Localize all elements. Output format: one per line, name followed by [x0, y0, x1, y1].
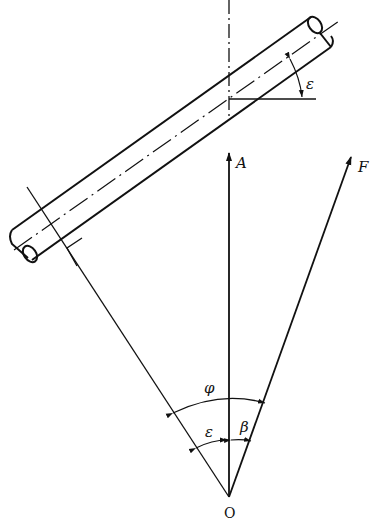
label-a: A: [234, 154, 247, 172]
label-f: F: [357, 158, 369, 176]
vector-f: [229, 157, 351, 497]
shaft-centerline: [14, 21, 339, 250]
inclined-shaft: [10, 14, 333, 265]
perpendicular-line: [27, 187, 229, 497]
beta-angle-arc: [231, 440, 251, 441]
force-diagram: ε A F φ ε β O: [0, 0, 379, 529]
phi-angle-arc: [173, 398, 265, 413]
epsilon-angle-arc-top: [290, 59, 302, 97]
right-angle-marker: [67, 238, 82, 266]
epsilon-angle-arc-bottom: [196, 440, 227, 448]
label-epsilon-bottom: ε: [205, 423, 213, 441]
label-phi: φ: [204, 379, 215, 397]
label-epsilon-top: ε: [306, 75, 314, 93]
label-beta: β: [239, 418, 249, 436]
label-origin: O: [224, 505, 235, 521]
